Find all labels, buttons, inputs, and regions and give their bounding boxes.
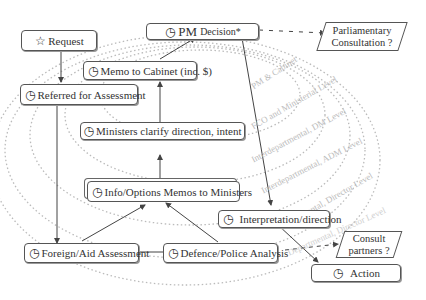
consult-line2: partners ? [348, 245, 389, 256]
node-ministers-clarify[interactable]: ◷ Ministers clarify direction, intent [80, 122, 245, 140]
arrow-defence-to-info [166, 203, 218, 242]
clock-icon: ◷ [164, 26, 176, 38]
node-action[interactable]: ◷ Action [311, 264, 401, 282]
node-referred-label: Referred for Assessment [37, 89, 145, 101]
node-foreign-label: Foreign/Aid Assessment [41, 247, 149, 259]
node-memo-label: Memo to Cabinet (inc. $) [100, 65, 212, 77]
node-info-options-memos[interactable]: ◷ Info/Options Memos to Ministers [87, 181, 240, 202]
clock-icon: ◷ [88, 65, 98, 77]
node-action-label: Action [350, 267, 380, 279]
node-pm-decision[interactable]: ◷ PM Decision* [146, 23, 259, 40]
star-icon: ☆ [34, 35, 46, 47]
node-request[interactable]: ☆ Request [21, 30, 97, 51]
node-request-label: Request [48, 35, 83, 47]
node-defence-police-analysis[interactable]: ◷ Defence/Police Analysis [163, 243, 278, 263]
clock-icon: ◷ [29, 247, 39, 259]
clock-icon: ◷ [223, 213, 233, 225]
decision-parliamentary-consultation[interactable]: Parliamentary Consultation ? [321, 22, 403, 51]
node-pm-prefix: PM [178, 24, 197, 40]
clock-icon: ◷ [92, 186, 102, 198]
parliamentary-line2: Consultation ? [332, 37, 393, 48]
clock-icon: ◷ [25, 89, 35, 101]
arrow-pm-to-parliamentary [259, 30, 325, 33]
arrow-memo-to-pm [160, 38, 195, 59]
node-interpretation-label: Interpretation/direction [239, 213, 341, 225]
node-info-label: Info/Options Memos to Ministers [104, 186, 252, 198]
node-ministers-label: Ministers clarify direction, intent [96, 125, 241, 137]
node-foreign-aid-assessment[interactable]: ◷ Foreign/Aid Assessment [24, 243, 139, 263]
clock-icon: ◷ [332, 267, 344, 279]
node-referred-for-assessment[interactable]: ◷ Referred for Assessment [20, 84, 138, 105]
node-interpretation-direction[interactable]: ◷ Interpretation/direction [218, 210, 330, 228]
consult-line1: Consult [353, 233, 386, 244]
decision-consult-partners[interactable]: Consult partners ? [340, 231, 398, 258]
clock-icon: ◷ [168, 247, 178, 259]
arrow-foreign-to-info [82, 205, 145, 241]
clock-icon: ◷ [84, 125, 94, 137]
parliamentary-line1: Parliamentary [333, 25, 392, 36]
node-pm-label: Decision* [200, 26, 241, 37]
node-memo-to-cabinet[interactable]: ◷ Memo to Cabinet (inc. $) [83, 61, 197, 80]
node-defence-label: Defence/Police Analysis [180, 247, 288, 259]
